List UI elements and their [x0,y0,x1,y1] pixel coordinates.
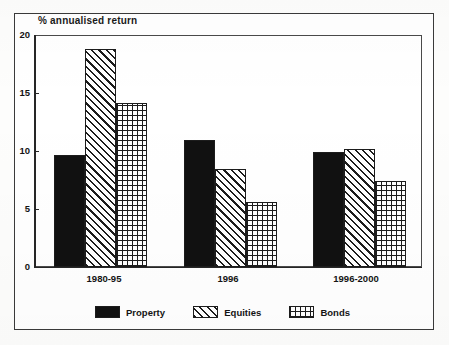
x-category-label-2: 1996 [168,273,288,284]
bar-property-1996-2000 [313,152,344,267]
y-tick-label: 20 [19,30,30,40]
y-tick-10: 10 [8,146,30,156]
bar-equities-1996-2000 [344,149,375,266]
legend-label: Bonds [320,307,350,318]
chart-title: % annualised return [38,15,137,26]
scanned-page: % annualised return 20 15 10 5 0 1980-95… [0,0,449,345]
bar-bonds-1980-95 [116,103,147,267]
y-tick-label: 5 [25,204,30,214]
bars-layer [36,35,422,267]
legend-item-equities: Equities [193,306,261,318]
y-tick-5: 5 [8,204,30,214]
legend-swatch-solid-icon [95,306,120,318]
y-tick-0: 0 [8,262,30,272]
bar-equities-1996 [215,169,246,266]
bar-property-1996 [184,140,215,266]
bar-property-1980-95 [54,155,85,266]
legend-swatch-crosshatch-icon [289,306,314,318]
y-tick-label: 15 [19,88,30,98]
y-tick-20: 20 [8,30,30,40]
legend-label: Equities [224,307,261,318]
legend-label: Property [126,307,165,318]
y-tick-15: 15 [8,88,30,98]
y-tick-label: 0 [25,262,30,272]
x-category-label-1: 1980-95 [44,273,164,284]
x-category-label-3: 1996-2000 [296,273,416,284]
bar-equities-1980-95 [85,49,116,267]
legend-swatch-diagonal-icon [193,306,218,318]
legend-item-property: Property [95,306,165,318]
legend-item-bonds: Bonds [289,306,350,318]
x-axis-line [34,267,422,269]
bar-bonds-1996-2000 [375,181,406,267]
legend: Property Equities Bonds [95,303,350,321]
bar-bonds-1996 [246,202,277,267]
y-tick-label: 10 [19,146,30,156]
